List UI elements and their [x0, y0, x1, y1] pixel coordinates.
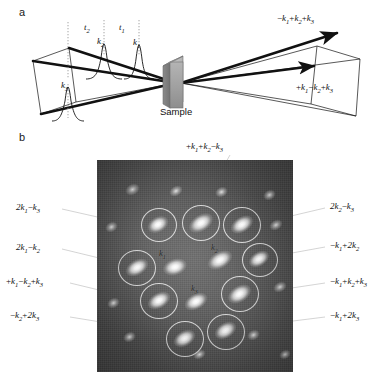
signal-beam-lower	[181, 66, 314, 83]
callout-left-4: −k2+2k3	[10, 310, 39, 322]
callout-right-2: −k1+2k2	[330, 240, 359, 252]
pulse-label-k3: k3	[61, 80, 68, 92]
sample-caption: Sample	[160, 106, 192, 117]
callout-right-1: 2k2−k3	[330, 201, 354, 213]
output-label-upper: −k1+k2+k3	[277, 13, 314, 25]
incoming-beams	[33, 48, 176, 114]
pulse-label-k1: k1	[133, 37, 140, 49]
callout-right-3: −k1+k2+k3	[330, 276, 367, 288]
figure-root: a	[0, 0, 384, 390]
plate-vignette	[97, 160, 293, 372]
right-cone-wireframe	[181, 46, 360, 116]
callout-right-4: −k1+2k3	[330, 310, 359, 322]
panel-b-letter: b	[19, 131, 25, 143]
delay-label-t1: t1	[119, 22, 125, 34]
output-label-lower: +k1−k2+k3	[296, 82, 333, 94]
diffraction-plate-image: k1 k2 k3	[97, 160, 293, 372]
callout-top: +k1+k2−k3	[186, 141, 223, 153]
callout-left-1: 2k1−k3	[16, 202, 40, 214]
callout-left-2: 2k1−k2	[16, 242, 40, 254]
pulse-label-k2: k2	[97, 36, 104, 48]
callout-left-3: +k1−k2+k3	[6, 276, 43, 288]
delay-label-t2: t2	[84, 22, 90, 34]
sample-box	[163, 56, 183, 108]
